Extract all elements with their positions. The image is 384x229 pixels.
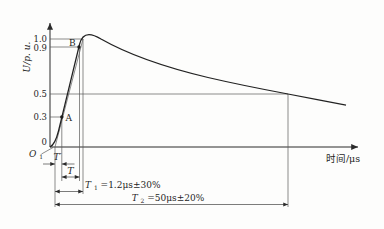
x-axis-label: 时间/μs [326, 153, 360, 164]
t-prime-label: T′ [53, 152, 61, 162]
y-tick-0.9: 0.9 [33, 43, 47, 53]
front-construction-line [55, 39, 83, 147]
t2-annotation: T 2 =50μs±20% [132, 193, 205, 205]
virtual-origin-leader [42, 148, 54, 155]
point-a-dot [60, 115, 63, 118]
y-tick-0.3: 0.3 [33, 112, 47, 122]
y-tick-0.5: 0.5 [33, 89, 47, 99]
t-label: T [67, 165, 74, 176]
virtual-origin-label: O 1 [29, 149, 43, 160]
point-a-label: A [65, 113, 73, 123]
waveform-plot: U/p. u. 时间/μs 1.0 0.9 0.5 0.3 0 O 1 A B … [0, 0, 384, 229]
waveform-curve [50, 35, 346, 148]
point-b-label: B [69, 38, 76, 48]
t1-annotation: T 1 =1.2μs±30% [85, 180, 161, 192]
point-b-dot [77, 45, 80, 48]
origin-zero-label: 0 [42, 137, 47, 147]
impulse-waveform-figure: U/p. u. 时间/μs 1.0 0.9 0.5 0.3 0 O 1 A B … [0, 0, 384, 229]
y-axis-label: U/p. u. [22, 41, 32, 72]
